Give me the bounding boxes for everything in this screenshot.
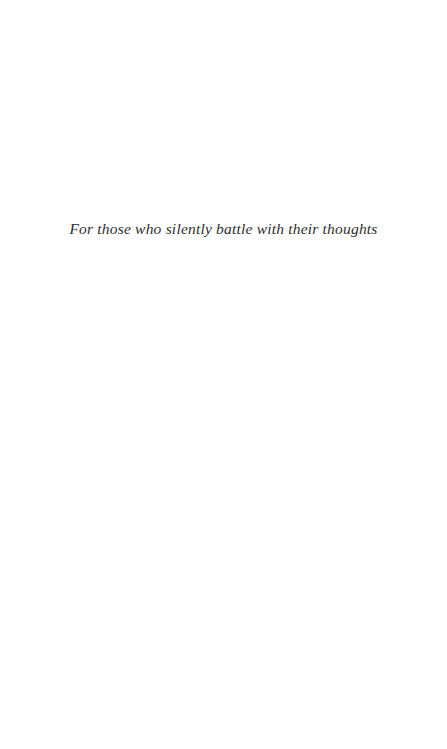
dedication-text: For those who silently battle with their… [0, 220, 447, 239]
dedication-page: For those who silently battle with their… [0, 0, 447, 749]
